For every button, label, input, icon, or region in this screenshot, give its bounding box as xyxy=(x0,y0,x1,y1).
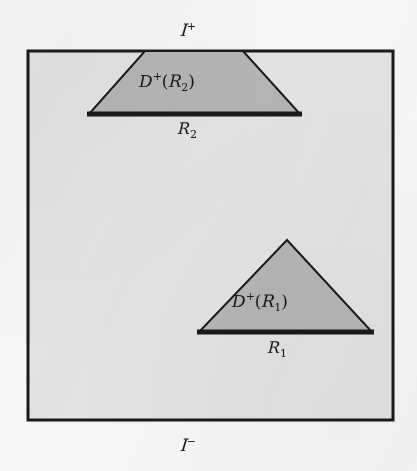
lower-domain-label: D+(R1) xyxy=(232,291,288,313)
lower-domain-close-paren: ) xyxy=(281,291,288,311)
upper-domain-close-paren: ) xyxy=(188,71,195,91)
lower-slice-set-letter: R xyxy=(268,340,281,356)
lower-slice-label: R1 xyxy=(268,340,287,359)
upper-domain-open-paren: ( xyxy=(162,71,169,91)
upper-domain-set-letter: R xyxy=(168,73,182,90)
past-null-infinity-label: I− xyxy=(181,436,196,454)
diagram-canvas xyxy=(0,0,417,471)
upper-domain-sign: + xyxy=(153,70,162,83)
past-null-infinity-sign: − xyxy=(187,435,196,448)
lower-slice-set-index: 1 xyxy=(280,347,287,360)
future-null-infinity-sign: + xyxy=(187,20,196,33)
upper-slice-label: R2 xyxy=(178,121,197,140)
lower-domain-operator: D xyxy=(232,291,246,311)
upper-domain-label: D+(R2) xyxy=(139,71,195,93)
lower-domain-set-letter: R xyxy=(261,293,275,310)
conformal-diagram-figure: I+ I− D+(R2) R2 D+(R1) R1 xyxy=(0,0,417,471)
upper-slice-set-letter: R xyxy=(178,121,191,137)
lower-domain-open-paren: ( xyxy=(255,291,262,311)
upper-slice-set-index: 2 xyxy=(190,128,197,141)
script-i-glyph: I xyxy=(180,437,188,454)
upper-domain-operator: D xyxy=(139,71,153,91)
script-i-glyph: I xyxy=(180,22,188,39)
lower-domain-sign: + xyxy=(246,290,255,303)
future-null-infinity-label: I+ xyxy=(181,21,196,39)
